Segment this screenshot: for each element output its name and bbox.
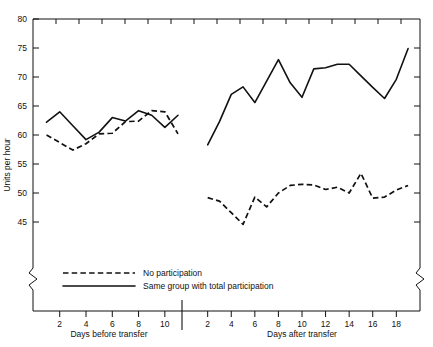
y-tick-label: 80 [18,14,28,24]
y-axis-title: Units per hour [2,138,12,192]
x-tick-label: 2 [205,319,210,329]
y-tick-label: 45 [18,217,28,227]
x-tick-label: 8 [276,319,281,329]
x-tick-label: 10 [160,319,170,329]
legend-label-total-participation: Same group with total participation [143,281,274,291]
x-tick-label: 4 [229,319,234,329]
x-tick-label: 2 [57,319,62,329]
y-tick-label: 65 [18,101,28,111]
y-tick-label: 60 [18,130,28,140]
x-axis-title-left: Days before transfer [70,329,147,339]
x-tick-label: 6 [252,319,257,329]
y-tick-label: 55 [18,159,28,169]
chart-background [0,0,433,347]
line-chart: Units per hour 80 75 70 65 60 55 50 45 [0,0,433,347]
y-tick-label: 50 [18,188,28,198]
x-tick-label: 14 [344,319,354,329]
x-tick-label: 18 [392,319,402,329]
x-tick-label: 10 [297,319,307,329]
x-tick-label: 6 [110,319,115,329]
x-tick-label: 16 [368,319,378,329]
x-tick-label: 12 [321,319,331,329]
x-tick-label: 8 [136,319,141,329]
y-tick-label: 70 [18,72,28,82]
x-axis-title-right: Days after transfer [267,329,337,339]
y-tick-label: 75 [18,43,28,53]
chart-figure: Units per hour 80 75 70 65 60 55 50 45 [0,0,433,347]
legend-label-no-participation: No participation [143,268,202,278]
x-tick-label: 4 [84,319,89,329]
